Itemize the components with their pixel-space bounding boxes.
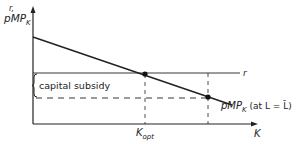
capital-subsidy-label: capital subsidy bbox=[39, 80, 111, 91]
y-axis-label-pmpk: pMPK bbox=[3, 12, 32, 27]
capital-subsidy-diagram: r, pMPK r capital subsidy pMPK (at L = L… bbox=[0, 0, 302, 144]
x-axis-arrow-icon bbox=[251, 122, 258, 127]
y-axis-arrow-icon bbox=[31, 6, 36, 13]
kopt-label: Kopt bbox=[136, 127, 154, 141]
optimum-point bbox=[142, 71, 147, 76]
r-line-label: r bbox=[243, 68, 248, 78]
x-axis-label: K bbox=[254, 128, 262, 139]
pmpk-curve bbox=[33, 37, 232, 105]
pmpk-curve-label: pMPK (at L = L̄) bbox=[220, 100, 292, 114]
subsidized-point bbox=[205, 94, 210, 99]
